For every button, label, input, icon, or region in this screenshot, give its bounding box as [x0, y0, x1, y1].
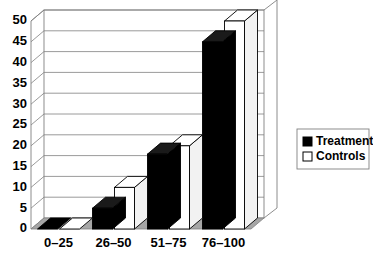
- legend-swatch-treatment: [303, 137, 312, 146]
- legend-label-treatment: Treatment: [316, 134, 373, 148]
- legend-swatch-controls: [303, 152, 312, 161]
- gridline-depth-tick: [31, 10, 44, 21]
- category-axis: 0–2526–5051–7576–100: [44, 235, 245, 250]
- gridline-depth-tick: [31, 135, 44, 146]
- gridline-depth-tick: [31, 93, 44, 104]
- y-tick-label: 45: [13, 33, 27, 48]
- gridline-depth-tick: [31, 52, 44, 63]
- x-category-label: 0–25: [44, 235, 73, 250]
- y-tick-label: 40: [13, 54, 27, 69]
- y-tick-label: 20: [13, 137, 27, 152]
- y-tick-label: 0: [20, 220, 27, 235]
- bar: [203, 31, 236, 229]
- y-tick-label: 25: [13, 116, 27, 131]
- y-tick-label: 50: [13, 12, 27, 27]
- gridline-depth-tick: [31, 197, 44, 208]
- depth-edge-top-right: [264, 0, 277, 10]
- y-tick-label: 10: [13, 179, 27, 194]
- gridline-depth-tick: [31, 72, 44, 83]
- legend: Treatment Controls: [297, 129, 373, 169]
- depth-edge-bottom-right: [264, 208, 277, 218]
- x-category-label: 26–50: [95, 235, 131, 250]
- x-category-label: 76–100: [202, 235, 245, 250]
- y-tick-label: 30: [13, 96, 27, 111]
- x-category-label: 51–75: [150, 235, 186, 250]
- gridline-depth-tick: [31, 114, 44, 125]
- legend-label-controls: Controls: [316, 149, 366, 163]
- y-tick-label: 35: [13, 75, 27, 90]
- chart-canvas: 05101520253035404550 0–2526–5051–7576–10…: [0, 0, 373, 276]
- gridline-depth-tick: [31, 176, 44, 187]
- gridline-depth-tick: [31, 31, 44, 42]
- bars-group: [38, 10, 258, 229]
- bar: [148, 143, 181, 229]
- y-tick-label: 5: [20, 200, 27, 215]
- gridline-depth-tick: [31, 156, 44, 167]
- y-tick-label: 15: [13, 158, 27, 173]
- bar-chart: 05101520253035404550 0–2526–5051–7576–10…: [0, 0, 373, 276]
